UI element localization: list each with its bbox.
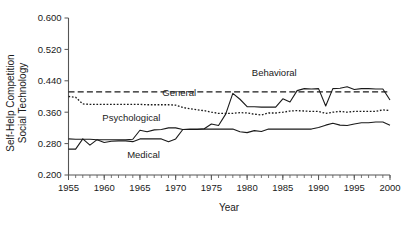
x-axis-tick-labels: 1955196019651970197519801985199019952000 — [58, 182, 401, 193]
series-label-general: General — [162, 87, 196, 98]
y-tick-label: 0.520 — [38, 44, 62, 55]
y-axis-tick-labels: 0.2000.2800.3600.4400.5200.600 — [38, 12, 62, 180]
x-tick-label: 1975 — [201, 182, 222, 193]
series-label-behavioral: Behavioral — [252, 67, 297, 78]
y-tick-label: 0.200 — [38, 169, 62, 180]
x-axis-major-ticks — [69, 175, 391, 180]
y-axis-title-line1: Self-Help Competition — [5, 54, 16, 151]
x-tick-label: 1960 — [94, 182, 115, 193]
y-tick-label: 0.600 — [38, 12, 62, 23]
y-axis-ticks — [65, 18, 69, 175]
series-label-psychological: Psychological — [102, 112, 160, 123]
axes — [69, 18, 391, 175]
series-annotations: BehavioralGeneralPsychologicalMedical — [102, 67, 296, 160]
line-chart-svg: Self-Help Competition Social Technology … — [0, 0, 403, 226]
x-tick-label: 2000 — [379, 182, 400, 193]
y-tick-label: 0.440 — [38, 75, 62, 86]
series-line-medical — [69, 122, 391, 149]
chart-figure: Self-Help Competition Social Technology … — [0, 0, 403, 226]
series-label-medical: Medical — [127, 149, 160, 160]
x-tick-label: 1985 — [272, 182, 293, 193]
y-axis-title: Self-Help Competition Social Technology — [5, 54, 28, 151]
y-tick-label: 0.360 — [38, 107, 62, 118]
x-axis-title: Year — [219, 202, 240, 213]
x-tick-label: 1965 — [129, 182, 150, 193]
x-tick-label: 1955 — [58, 182, 79, 193]
y-axis-title-line2: Social Technology — [17, 63, 28, 143]
y-tick-label: 0.280 — [38, 138, 62, 149]
x-tick-label: 1980 — [237, 182, 258, 193]
x-tick-label: 1995 — [344, 182, 365, 193]
x-tick-label: 1970 — [165, 182, 186, 193]
x-tick-label: 1990 — [308, 182, 329, 193]
